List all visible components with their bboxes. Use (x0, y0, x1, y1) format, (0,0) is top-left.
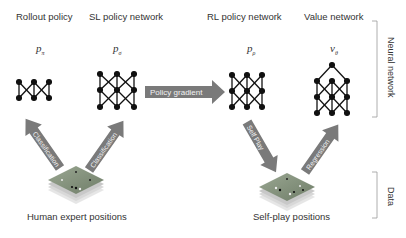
regression-label: Regression (305, 138, 332, 172)
regression-arrow: Regression (297, 119, 347, 178)
self-play-label: Self Play (245, 124, 266, 152)
self-play-arrow: Self Play (238, 117, 284, 177)
classification-arrow-right: Classification (81, 115, 132, 176)
value-network-icon (315, 63, 350, 116)
data-side-label: Data (386, 187, 396, 206)
rollout-network-icon (17, 80, 52, 101)
selfplay-board-stack-icon (259, 173, 315, 211)
classification-label-right: Classification (89, 131, 118, 169)
human-board-stack-icon (48, 166, 104, 204)
data-bracket (372, 172, 377, 218)
sl-network-icon (98, 72, 137, 110)
rl-network-icon (230, 73, 265, 110)
diagram-canvas: Policy gradient Classification Classific… (0, 0, 406, 238)
human-expert-positions-label: Human expert positions (27, 211, 127, 222)
policy-gradient-arrow: Policy gradient (145, 80, 225, 104)
neural-network-side-label: Neural network (386, 37, 396, 98)
self-play-positions-label: Self-play positions (253, 211, 330, 222)
policy-gradient-label: Policy gradient (150, 88, 203, 97)
classification-label-left: Classification (31, 130, 60, 168)
classification-arrow-left: Classification (17, 113, 68, 174)
neural-network-bracket (372, 21, 377, 117)
